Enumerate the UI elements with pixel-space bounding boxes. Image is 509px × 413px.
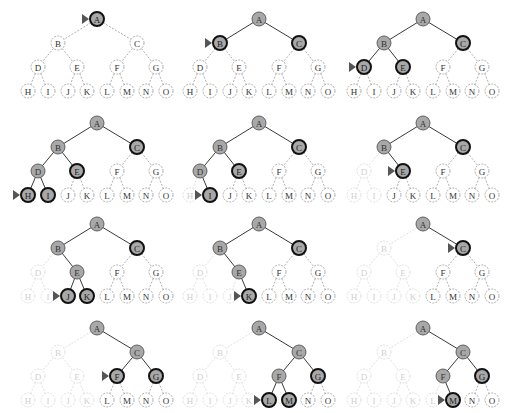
node-label-E: E bbox=[400, 372, 406, 382]
node-L: L bbox=[100, 188, 114, 202]
node-label-L: L bbox=[104, 292, 110, 302]
node-label-O: O bbox=[163, 292, 170, 302]
node-C: C bbox=[456, 345, 470, 359]
node-label-I: I bbox=[47, 87, 50, 97]
node-L: L bbox=[426, 393, 440, 407]
node-label-O: O bbox=[163, 191, 170, 201]
node-G: G bbox=[149, 369, 163, 383]
node-N: N bbox=[139, 393, 153, 407]
node-H: H bbox=[347, 393, 361, 407]
node-label-A: A bbox=[94, 220, 101, 230]
node-label-L: L bbox=[430, 191, 436, 201]
node-F: F bbox=[436, 265, 450, 279]
node-label-B: B bbox=[55, 348, 61, 358]
node-label-K: K bbox=[246, 191, 253, 201]
node-N: N bbox=[301, 393, 315, 407]
node-label-E: E bbox=[74, 372, 80, 382]
node-label-L: L bbox=[430, 87, 436, 97]
node-E: E bbox=[232, 265, 246, 279]
node-O: O bbox=[159, 393, 173, 407]
node-label-G: G bbox=[479, 268, 486, 278]
node-label-I: I bbox=[373, 87, 376, 97]
node-M: M bbox=[120, 393, 134, 407]
node-I: I bbox=[195, 188, 217, 202]
panel-step-10: ABCDEFGHIJKLMNO bbox=[21, 321, 173, 407]
node-label-F: F bbox=[276, 372, 281, 382]
node-label-D: D bbox=[35, 372, 42, 382]
node-label-B: B bbox=[217, 348, 223, 358]
node-label-M: M bbox=[285, 292, 293, 302]
node-L: L bbox=[262, 289, 276, 303]
node-label-O: O bbox=[489, 87, 496, 97]
node-label-C: C bbox=[460, 348, 466, 358]
node-label-M: M bbox=[123, 191, 131, 201]
node-label-M: M bbox=[123, 292, 131, 302]
node-F: F bbox=[436, 60, 450, 74]
node-label-A: A bbox=[256, 119, 263, 129]
node-label-G: G bbox=[315, 268, 322, 278]
node-label-D: D bbox=[197, 63, 204, 73]
node-label-F: F bbox=[276, 63, 281, 73]
node-label-B: B bbox=[381, 39, 387, 49]
node-label-O: O bbox=[163, 396, 170, 406]
node-J: J bbox=[387, 84, 401, 98]
node-label-L: L bbox=[104, 87, 110, 97]
node-B: B bbox=[51, 345, 65, 359]
node-label-C: C bbox=[460, 143, 466, 153]
node-label-I: I bbox=[47, 292, 50, 302]
node-label-B: B bbox=[381, 348, 387, 358]
node-H: H bbox=[347, 188, 361, 202]
node-label-E: E bbox=[236, 63, 242, 73]
node-B: B bbox=[377, 36, 391, 50]
node-B: B bbox=[51, 140, 65, 154]
node-label-K: K bbox=[84, 87, 91, 97]
node-label-F: F bbox=[114, 63, 119, 73]
node-O: O bbox=[159, 84, 173, 98]
node-label-A: A bbox=[94, 324, 101, 334]
node-label-K: K bbox=[410, 396, 417, 406]
node-H: H bbox=[183, 289, 197, 303]
node-label-E: E bbox=[74, 167, 80, 177]
node-M: M bbox=[446, 188, 460, 202]
node-A: A bbox=[416, 217, 430, 231]
node-label-G: G bbox=[153, 372, 160, 382]
node-label-K: K bbox=[84, 191, 91, 201]
node-H: H bbox=[183, 393, 197, 407]
node-label-D: D bbox=[361, 167, 368, 177]
node-K: K bbox=[80, 188, 94, 202]
node-label-N: N bbox=[469, 396, 476, 406]
node-label-K: K bbox=[84, 292, 91, 302]
node-D: D bbox=[349, 60, 371, 74]
node-K: K bbox=[80, 289, 94, 303]
panel-step-7: ABCDEFGHIJKLMNO bbox=[21, 217, 173, 303]
node-label-C: C bbox=[134, 39, 140, 49]
node-label-I: I bbox=[209, 396, 212, 406]
node-label-J: J bbox=[228, 396, 232, 406]
node-label-E: E bbox=[236, 167, 242, 177]
node-label-I: I bbox=[209, 191, 212, 201]
node-label-F: F bbox=[114, 167, 119, 177]
node-G: G bbox=[475, 60, 489, 74]
panel-step-4: ABCDEFGHIJKLMNO bbox=[13, 116, 173, 202]
node-label-M: M bbox=[285, 87, 293, 97]
node-label-K: K bbox=[410, 292, 417, 302]
node-J: J bbox=[387, 188, 401, 202]
node-label-J: J bbox=[392, 396, 396, 406]
current-pointer-icon bbox=[388, 166, 395, 176]
node-L: L bbox=[100, 289, 114, 303]
node-label-K: K bbox=[246, 87, 253, 97]
node-label-H: H bbox=[351, 191, 358, 201]
node-O: O bbox=[485, 289, 499, 303]
node-label-K: K bbox=[84, 396, 91, 406]
node-J: J bbox=[61, 84, 75, 98]
current-pointer-icon bbox=[195, 190, 202, 200]
node-K: K bbox=[406, 289, 420, 303]
node-label-D: D bbox=[197, 167, 204, 177]
panel-step-11: ABCDEFGHIJKLMNO bbox=[183, 321, 335, 407]
node-O: O bbox=[321, 393, 335, 407]
node-G: G bbox=[475, 369, 489, 383]
node-label-J: J bbox=[392, 292, 396, 302]
node-label-H: H bbox=[25, 396, 32, 406]
current-pointer-icon bbox=[13, 190, 20, 200]
node-H: H bbox=[21, 289, 35, 303]
